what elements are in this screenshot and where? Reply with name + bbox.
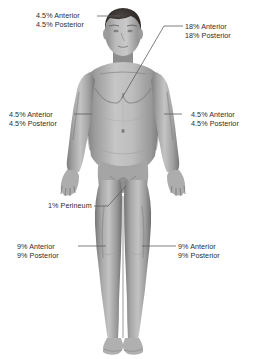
left-leg-label-anterior: 9% Anterior: [17, 242, 59, 251]
trunk-label-posterior: 18% Posterior: [185, 31, 231, 40]
right-arm-label-anterior: 4.5% Anterior: [191, 110, 239, 119]
left-arm-label-anterior: 4.5% Anterior: [9, 110, 57, 119]
trunk-label-anterior: 18% Anterior: [185, 22, 231, 31]
right-arm-label: 4.5% Anterior 4.5% Posterior: [191, 110, 239, 129]
head-label-posterior: 4.5% Posterior: [36, 20, 84, 29]
perineum-label-text: 1% Perineum: [48, 201, 92, 210]
human-body-figure: [0, 0, 256, 359]
head-label-anterior: 4.5% Anterior: [36, 11, 84, 20]
right-leg-label-posterior: 9% Posterior: [178, 251, 220, 260]
body-group: [61, 8, 185, 355]
left-leg-label: 9% Anterior 9% Posterior: [17, 242, 59, 261]
left-leg-label-posterior: 9% Posterior: [17, 251, 59, 260]
left-arm-label-posterior: 4.5% Posterior: [9, 119, 57, 128]
perineum-label: 1% Perineum: [48, 201, 92, 210]
head-label: 4.5% Anterior 4.5% Posterior: [36, 11, 84, 30]
left-arm-label: 4.5% Anterior 4.5% Posterior: [9, 110, 57, 129]
trunk-label: 18% Anterior 18% Posterior: [185, 22, 231, 41]
rule-of-nines-diagram: 4.5% Anterior 4.5% Posterior 18% Anterio…: [0, 0, 256, 359]
right-arm-label-posterior: 4.5% Posterior: [191, 119, 239, 128]
right-leg-label: 9% Anterior 9% Posterior: [178, 242, 220, 261]
right-leg-label-anterior: 9% Anterior: [178, 242, 220, 251]
